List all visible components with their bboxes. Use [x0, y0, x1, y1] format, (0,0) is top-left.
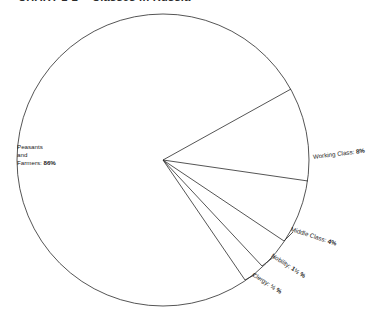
slice-label-line-3-text: Farmers:: [17, 159, 42, 166]
slice-divider-nobility-clergy: [163, 160, 262, 266]
slice-value-middle-class: 4%: [327, 237, 338, 246]
slice-divider-clergy-peasants: [163, 160, 245, 280]
slice-divider-peasants-working: [163, 89, 291, 160]
slice-label-peasants-and-farmers: Peasants and Farmers: 86%: [17, 143, 56, 168]
slice-label-line-1: Peasants: [17, 143, 56, 151]
slice-divider-middle-nobility: [163, 160, 284, 241]
leader-line-middle-class: [284, 232, 293, 241]
chart-page: CHART 1-2 Classes in Russia Peasants and…: [0, 0, 389, 316]
slice-value-working-class: 8%: [355, 147, 365, 155]
slice-label-line-3: Farmers: 86%: [17, 159, 56, 167]
slice-divider-working-middle: [163, 160, 308, 181]
slice-value-peasants-and-farmers: 86%: [43, 159, 55, 166]
slice-label-line-2: and: [17, 151, 56, 159]
